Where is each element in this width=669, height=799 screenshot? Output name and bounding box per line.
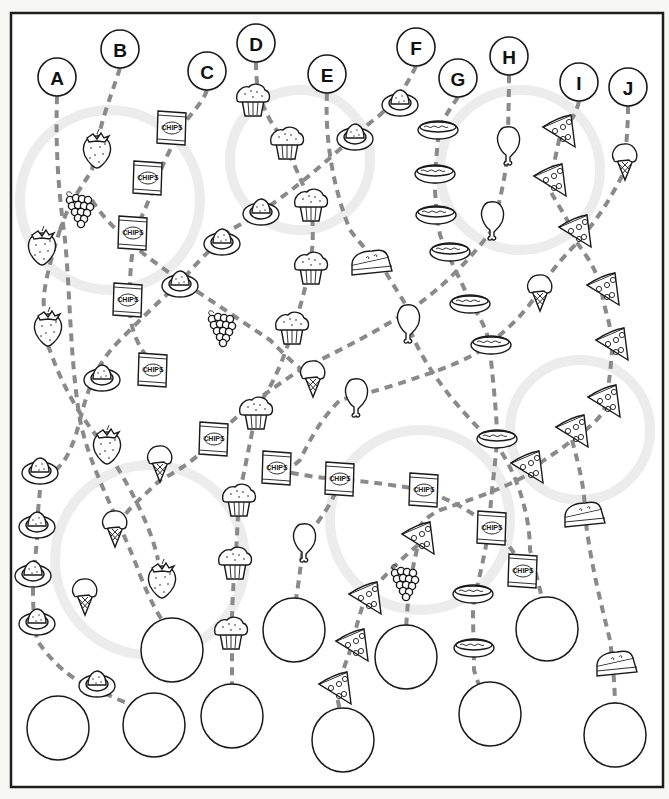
svg-text:CHIPS: CHIPS bbox=[122, 229, 144, 236]
chips-icon: CHIPS bbox=[133, 161, 162, 195]
start-label-h: H bbox=[490, 37, 528, 75]
answer-circle[interactable] bbox=[375, 625, 437, 689]
start-label-f: F bbox=[397, 28, 435, 66]
answer-circle[interactable] bbox=[312, 708, 374, 772]
svg-text:A: A bbox=[50, 68, 64, 89]
chips-icon: CHIPS bbox=[199, 422, 228, 456]
svg-text:CHIPS: CHIPS bbox=[512, 567, 534, 574]
answer-circle[interactable] bbox=[516, 597, 578, 661]
answer-circle[interactable] bbox=[459, 682, 521, 746]
svg-text:CHIPS: CHIPS bbox=[161, 124, 183, 131]
worksheet-canvas: CHIPSCHIPSCHIPSCHIPSCHIPSCHIPSCHIPSCHIPS… bbox=[0, 0, 669, 799]
start-label-c: C bbox=[188, 52, 226, 90]
svg-text:CHIPS: CHIPS bbox=[413, 486, 435, 493]
hotdog-icon bbox=[415, 165, 455, 183]
pie-icon bbox=[597, 651, 637, 676]
hotdog-icon bbox=[416, 206, 456, 224]
svg-text:G: G bbox=[451, 69, 466, 90]
chips-icon: CHIPS bbox=[118, 216, 147, 250]
chips-icon: CHIPS bbox=[325, 462, 354, 496]
svg-text:D: D bbox=[249, 34, 263, 55]
svg-text:CHIPS: CHIPS bbox=[137, 174, 159, 181]
answer-circle[interactable] bbox=[584, 703, 646, 767]
answer-circle[interactable] bbox=[123, 693, 185, 757]
hotdog-icon bbox=[453, 585, 493, 603]
chips-icon: CHIPS bbox=[262, 451, 291, 485]
svg-text:E: E bbox=[321, 65, 334, 86]
start-label-j: J bbox=[609, 68, 647, 106]
answer-circle[interactable] bbox=[263, 598, 325, 662]
answer-circle[interactable] bbox=[27, 696, 89, 760]
start-label-e: E bbox=[308, 55, 346, 93]
svg-text:F: F bbox=[410, 38, 422, 59]
start-label-a: A bbox=[38, 58, 76, 96]
hotdog-icon bbox=[454, 639, 494, 657]
start-label-b: B bbox=[101, 30, 139, 68]
svg-text:B: B bbox=[113, 40, 127, 61]
svg-text:CHIPS: CHIPS bbox=[329, 475, 351, 482]
svg-text:CHIPS: CHIPS bbox=[117, 296, 139, 303]
svg-text:J: J bbox=[623, 78, 634, 99]
answer-circle[interactable] bbox=[201, 684, 263, 748]
svg-text:CHIPS: CHIPS bbox=[266, 464, 288, 471]
svg-text:C: C bbox=[200, 62, 214, 83]
pie-icon bbox=[565, 502, 605, 527]
svg-text:H: H bbox=[502, 47, 516, 68]
chips-icon: CHIPS bbox=[157, 111, 186, 145]
hotdog-icon bbox=[477, 430, 517, 448]
chips-icon: CHIPS bbox=[508, 554, 537, 588]
svg-text:CHIPS: CHIPS bbox=[203, 435, 225, 442]
hotdog-icon bbox=[450, 295, 490, 313]
start-label-d: D bbox=[237, 24, 275, 62]
chips-icon: CHIPS bbox=[409, 473, 438, 507]
start-label-g: G bbox=[439, 59, 477, 97]
answer-circle[interactable] bbox=[141, 618, 203, 682]
svg-text:CHIPS: CHIPS bbox=[142, 366, 164, 373]
hotdog-icon bbox=[418, 121, 458, 139]
chips-icon: CHIPS bbox=[477, 511, 506, 545]
svg-text:I: I bbox=[576, 73, 581, 94]
pie-icon bbox=[352, 250, 392, 275]
chips-icon: CHIPS bbox=[113, 283, 142, 317]
svg-text:CHIPS: CHIPS bbox=[481, 524, 503, 531]
hotdog-icon bbox=[430, 243, 470, 261]
start-label-i: I bbox=[560, 63, 598, 101]
chips-icon: CHIPS bbox=[138, 353, 167, 387]
hotdog-icon bbox=[471, 336, 511, 354]
